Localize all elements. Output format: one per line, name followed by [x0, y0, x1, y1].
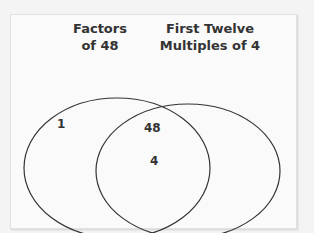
left-set-circle [24, 98, 210, 233]
left-only-value: 1 [57, 117, 65, 131]
intersection-value-2: 4 [150, 154, 158, 168]
intersection-value-1: 48 [144, 121, 161, 135]
venn-circles [0, 0, 314, 233]
